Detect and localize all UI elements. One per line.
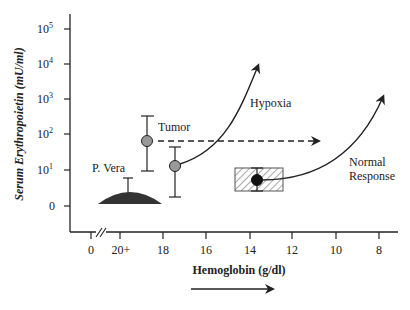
svg-text:0: 0 xyxy=(49,199,55,213)
normal-response-label: NormalResponse xyxy=(349,155,395,183)
y-ticks xyxy=(64,29,70,206)
svg-text:20+: 20+ xyxy=(112,243,131,257)
svg-text:104: 104 xyxy=(37,56,53,71)
tumor-label: Tumor xyxy=(158,120,190,134)
svg-text:12: 12 xyxy=(286,243,298,257)
x-axis-title: Hemoglobin (g/dl) xyxy=(192,263,285,277)
x-tick-labels: 0 20+ 18 16 14 12 10 8 xyxy=(88,243,382,257)
svg-text:0: 0 xyxy=(88,243,94,257)
svg-text:103: 103 xyxy=(37,91,53,106)
x-axis-break xyxy=(96,228,106,237)
pvera-marker xyxy=(98,178,162,204)
svg-text:10: 10 xyxy=(330,243,342,257)
hypoxia-label: Hypoxia xyxy=(250,96,292,110)
x-ticks xyxy=(91,232,379,239)
svg-text:14: 14 xyxy=(244,243,256,257)
y-axis-title: Serum Erythropoietin (mU/ml) xyxy=(12,47,26,200)
svg-text:8: 8 xyxy=(376,243,382,257)
svg-text:101: 101 xyxy=(37,162,53,177)
svg-text:105: 105 xyxy=(37,21,53,36)
y-tick-labels: 105 104 103 102 101 0 xyxy=(37,21,55,213)
svg-text:18: 18 xyxy=(157,243,169,257)
pvera-label: P. Vera xyxy=(92,161,126,175)
svg-text:102: 102 xyxy=(37,126,53,141)
svg-text:16: 16 xyxy=(200,243,212,257)
epo-hemoglobin-chart: 105 104 103 102 101 0 Serum Erythropoiet… xyxy=(0,0,410,310)
tumor-marker xyxy=(141,116,154,171)
